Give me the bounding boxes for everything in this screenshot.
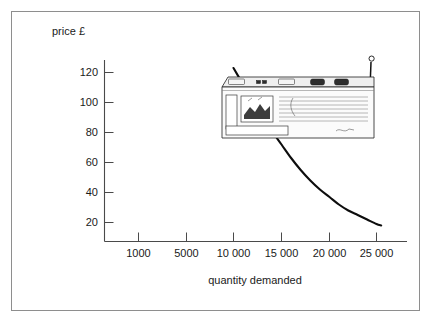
radio-illustration-icon — [222, 56, 374, 138]
radio-top-button — [263, 81, 267, 84]
radio-top-button — [311, 79, 325, 85]
x-tick-label: 5000 — [174, 247, 198, 259]
x-tick-label: 20 000 — [313, 247, 347, 259]
radio-top-button — [257, 81, 261, 84]
y-tick-label: 100 — [80, 96, 98, 108]
antenna-tip-icon — [369, 56, 374, 61]
y-tick-label: 40 — [86, 186, 98, 198]
y-tick-label: 120 — [80, 66, 98, 78]
demand-curve-chart: price £ 120 100 80 60 40 20 — [12, 12, 419, 310]
y-tick-label: 20 — [86, 216, 98, 228]
figure-root: price £ 120 100 80 60 40 20 — [0, 0, 445, 327]
radio-top-button — [335, 79, 349, 85]
x-tick-label: 25 000 — [360, 247, 394, 259]
y-axis-ticks — [105, 73, 114, 223]
x-tick-label: 10 000 — [217, 247, 251, 259]
x-axis-title: quantity demanded — [208, 274, 302, 286]
radio-top-button — [279, 79, 295, 85]
figure-frame: price £ 120 100 80 60 40 20 — [11, 11, 420, 311]
y-axis-title: price £ — [52, 25, 85, 37]
x-axis-ticks — [139, 233, 377, 242]
y-tick-label: 60 — [86, 156, 98, 168]
radio-bottom-drawer — [226, 126, 288, 135]
x-tick-label: 15 000 — [265, 247, 299, 259]
radio-top-button — [229, 79, 245, 85]
radio-side-panel — [226, 95, 237, 129]
x-tick-label: 1000 — [126, 247, 150, 259]
y-tick-label: 80 — [86, 126, 98, 138]
